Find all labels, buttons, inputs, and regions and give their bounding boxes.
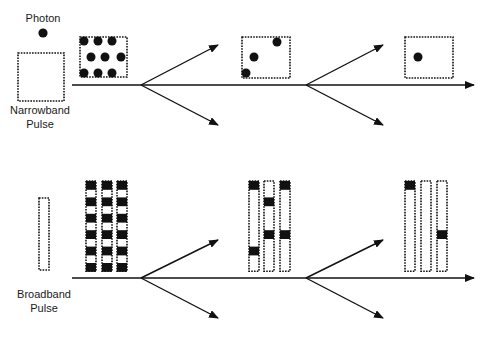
photon-cell bbox=[117, 181, 127, 190]
photon-cell bbox=[102, 181, 112, 190]
photon-splitting-diagram: Photon Narrowband Pulse bbox=[0, 0, 495, 338]
top-row-narrowband: Photon Narrowband Pulse bbox=[10, 12, 474, 130]
top-split2-down-arrow bbox=[306, 85, 383, 125]
bottom-split1-up-arrow bbox=[141, 240, 218, 278]
top-split2-up-arrow bbox=[306, 45, 383, 85]
time-bin-column bbox=[86, 181, 96, 271]
photon-cell bbox=[86, 197, 96, 206]
bottom-stage1-packet bbox=[86, 181, 127, 272]
time-bin-column bbox=[405, 181, 415, 271]
photon-cell bbox=[102, 247, 112, 256]
photon-cell bbox=[117, 263, 127, 272]
photon-cell bbox=[280, 230, 290, 239]
photon-cell bbox=[86, 263, 96, 272]
broadband-label-line2: Pulse bbox=[30, 302, 58, 314]
time-bin-column bbox=[249, 181, 259, 271]
top-stage3-packet bbox=[405, 37, 453, 78]
photon-cell bbox=[405, 181, 415, 190]
top-split1-down-arrow bbox=[141, 85, 218, 125]
narrowband-pulse-box bbox=[18, 53, 64, 101]
photon-cell bbox=[102, 230, 112, 239]
time-bin-column bbox=[102, 181, 112, 271]
photon-cell bbox=[117, 214, 127, 223]
top-stage1-packet bbox=[80, 37, 128, 78]
photon-cell bbox=[249, 181, 259, 190]
photon-cell bbox=[86, 214, 96, 223]
photon-cell bbox=[437, 230, 447, 239]
time-bin-column bbox=[117, 181, 127, 271]
photon-cell bbox=[102, 197, 112, 206]
photon-dot-icon bbox=[38, 28, 47, 37]
time-bin-column bbox=[264, 181, 274, 271]
bottom-split1-down-arrow bbox=[141, 278, 218, 318]
bottom-split2-down-arrow bbox=[306, 278, 383, 318]
bottom-stage3-packet bbox=[405, 181, 447, 271]
photon-cell bbox=[280, 181, 290, 190]
top-stage2-packet bbox=[242, 37, 291, 78]
narrowband-label-line1: Narrowband bbox=[10, 104, 70, 116]
time-bin-column bbox=[437, 181, 447, 271]
photon-cell bbox=[117, 247, 127, 256]
photon-cell bbox=[117, 197, 127, 206]
photon-cell bbox=[102, 214, 112, 223]
photon-cell bbox=[117, 230, 127, 239]
top-split1-up-arrow bbox=[141, 45, 218, 85]
photon-cell bbox=[264, 230, 274, 239]
photon-cell bbox=[86, 230, 96, 239]
photon-cell bbox=[102, 263, 112, 272]
bottom-split2-up-arrow bbox=[306, 240, 383, 278]
broadband-pulse-box bbox=[39, 198, 49, 270]
narrowband-label-line2: Pulse bbox=[26, 118, 54, 130]
bottom-row-broadband: Broadband Pulse bbox=[17, 181, 474, 318]
time-bin-column bbox=[421, 181, 431, 271]
photon-label: Photon bbox=[26, 12, 61, 24]
broadband-label-line1: Broadband bbox=[17, 288, 71, 300]
bottom-stage2-packet bbox=[249, 181, 290, 271]
photon-cell bbox=[249, 247, 259, 256]
photon-cell bbox=[86, 247, 96, 256]
photon-cell bbox=[264, 197, 274, 206]
photon-cell bbox=[86, 181, 96, 190]
time-bin-column bbox=[280, 181, 290, 271]
